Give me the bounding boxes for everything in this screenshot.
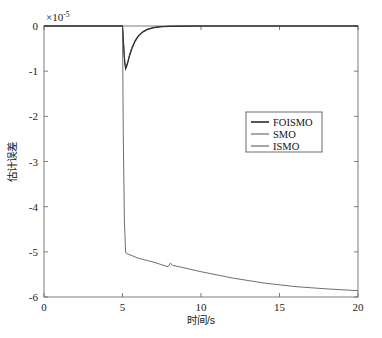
- y-tick-label: -3: [29, 156, 39, 168]
- y-tick-label: -5: [29, 246, 39, 258]
- x-tick-label: 0: [41, 301, 47, 313]
- chart-legend[interactable]: FOISMOSMOISMO: [246, 112, 322, 152]
- x-tick-label: 15: [274, 301, 286, 313]
- x-tick-label: 10: [196, 301, 208, 313]
- chart-figure: 05101520 0-1-2-3-4-5-6 ×10-5 时间/s 估计误差 F…: [0, 0, 382, 338]
- legend-label-ismo[interactable]: ISMO: [273, 141, 300, 152]
- x-tick-label: 5: [120, 301, 126, 313]
- legend-label-smo[interactable]: SMO: [273, 129, 296, 140]
- x-axis-label: 时间/s: [187, 314, 215, 326]
- y-tick-label: -1: [29, 65, 38, 77]
- y-axis-label: 估计误差: [6, 142, 18, 182]
- y-tick-label: 0: [33, 20, 39, 32]
- y-tick-label: -2: [29, 110, 38, 122]
- x-tick-label: 20: [353, 301, 365, 313]
- y-tick-label: -4: [29, 201, 39, 213]
- legend-label-foismo[interactable]: FOISMO: [273, 117, 313, 128]
- estimation-error-line-chart: 05101520 0-1-2-3-4-5-6 ×10-5 时间/s 估计误差 F…: [0, 0, 382, 338]
- chart-background: [0, 0, 382, 338]
- y-tick-label: -6: [29, 291, 39, 303]
